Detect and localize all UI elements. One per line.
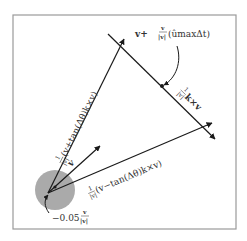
svg-text:v: v <box>82 208 87 215</box>
svg-text:v: v <box>160 24 165 31</box>
svg-text:|v|: |v| <box>80 217 88 225</box>
origin-point <box>53 185 56 188</box>
svg-text:|v|: |v| <box>158 33 166 41</box>
svg-text:v+: v+ <box>134 29 148 39</box>
target-point <box>160 84 164 88</box>
diagram-canvas: v+ v |v| (ûmaxΔt) 1 |v| k×v 1 |v| (v+ta… <box>0 0 247 241</box>
svg-text:−0.05: −0.05 <box>52 213 80 223</box>
svg-text:(ûmaxΔt): (ûmaxΔt) <box>168 29 210 39</box>
